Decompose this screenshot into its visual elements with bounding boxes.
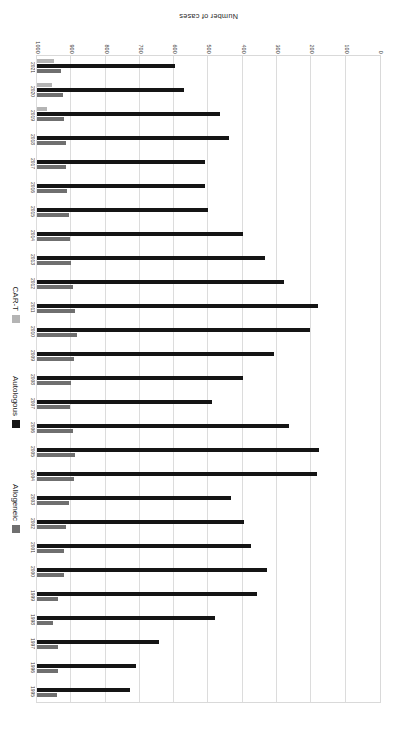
bar-autologous-2009 [37, 352, 274, 356]
legend-item-car-t[interactable]: CAR-T [1, 287, 31, 323]
value-tick-label: 300 [275, 44, 281, 54]
value-tick-label: 700 [138, 44, 144, 54]
bar-allogeneic-2019 [37, 117, 64, 121]
category-tick-label-2001: 2001 [15, 535, 35, 559]
bar-allogeneic-2017 [37, 165, 66, 169]
bar-allogeneic-2016 [37, 189, 67, 193]
bar-autologous-2020 [37, 88, 184, 92]
value-tick-label: 900 [69, 44, 75, 54]
legend-swatch-allogeneic [12, 525, 20, 533]
bar-allogeneic-2015 [37, 213, 69, 217]
bar-allogeneic-2005 [37, 453, 75, 457]
category-tick-label-2000: 2000 [15, 559, 35, 583]
bar-allogeneic-2011 [37, 309, 75, 313]
bar-autologous-2014 [37, 232, 243, 236]
chart-page: 01002003004005006007008009001000 Number … [0, 0, 417, 733]
value-tick-label: 0 [378, 51, 384, 54]
gridline [345, 56, 346, 702]
legend-item-autologous[interactable]: Autologous [1, 376, 31, 428]
category-tick-label-2018: 2018 [15, 127, 35, 151]
bar-autologous-2004 [37, 472, 317, 476]
category-tick-label-2015: 2015 [15, 199, 35, 223]
value-axis-ticks: 01002003004005006007008009001000 [36, 20, 381, 54]
category-tick-label-2020: 2020 [15, 79, 35, 103]
chart-legend: AllogeneicAutologousCAR-T [1, 233, 31, 533]
bar-allogeneic-2009 [37, 357, 74, 361]
bar-allogeneic-2002 [37, 525, 66, 529]
bar-allogeneic-2001 [37, 549, 64, 553]
rotated-figure: 01002003004005006007008009001000 Number … [0, 0, 417, 733]
bar-autologous-2001 [37, 544, 251, 548]
bar-autologous-1997 [37, 640, 159, 644]
bar-allogeneic-1995 [37, 693, 57, 697]
category-tick-label-1995: 1995 [15, 679, 35, 703]
bar-allogeneic-2004 [37, 477, 74, 481]
bar-autologous-2000 [37, 568, 267, 572]
bar-autologous-2010 [37, 328, 310, 332]
bar-allogeneic-1999 [37, 597, 58, 601]
bar-allogeneic-2013 [37, 261, 71, 265]
bar-allogeneic-2014 [37, 237, 70, 241]
value-axis-title: Number of cases [0, 12, 417, 21]
bar-allogeneic-2012 [37, 285, 73, 289]
bar-autologous-2007 [37, 400, 212, 404]
category-tick-label-1998: 1998 [15, 607, 35, 631]
category-tick-label-2016: 2016 [15, 175, 35, 199]
category-tick-label-2021: 2021 [15, 55, 35, 79]
category-tick-label-1999: 1999 [15, 583, 35, 607]
bar-allogeneic-1997 [37, 645, 58, 649]
bar-allogeneic-2006 [37, 429, 73, 433]
legend-swatch-car-t [12, 315, 20, 323]
bar-allogeneic-2007 [37, 405, 70, 409]
bar-autologous-2017 [37, 160, 205, 164]
bar-autologous-2013 [37, 256, 265, 260]
category-tick-label-2017: 2017 [15, 151, 35, 175]
bar-autologous-1995 [37, 688, 130, 692]
category-tick-label-1996: 1996 [15, 655, 35, 679]
bar-car-t-2019 [37, 107, 47, 111]
bar-allogeneic-2020 [37, 93, 63, 97]
legend-label: CAR-T [12, 287, 21, 311]
bar-car-t-2021 [37, 59, 54, 63]
bar-autologous-2006 [37, 424, 289, 428]
value-tick-label: 200 [309, 44, 315, 54]
bar-autologous-2018 [37, 136, 229, 140]
legend-label: Allogeneic [12, 484, 21, 521]
bar-autologous-1996 [37, 664, 136, 668]
gridline [276, 56, 277, 702]
value-tick-label: 100 [344, 44, 350, 54]
bar-allogeneic-2008 [37, 381, 71, 385]
legend-swatch-autologous [12, 420, 20, 428]
bar-autologous-1999 [37, 592, 257, 596]
bar-allogeneic-2003 [37, 501, 69, 505]
bar-autologous-2019 [37, 112, 221, 116]
value-tick-label: 800 [104, 44, 110, 54]
bar-autologous-2012 [37, 280, 284, 284]
bar-autologous-2016 [37, 184, 205, 188]
legend-label: Autologous [12, 376, 21, 416]
bar-autologous-2021 [37, 64, 175, 68]
value-tick-label: 600 [172, 44, 178, 54]
plot-area [36, 55, 381, 703]
category-tick-label-1997: 1997 [15, 631, 35, 655]
bar-autologous-2008 [37, 376, 243, 380]
value-tick-label: 400 [241, 44, 247, 54]
bar-autologous-2015 [37, 208, 209, 212]
bar-autologous-1998 [37, 616, 215, 620]
bar-allogeneic-1998 [37, 621, 53, 625]
bar-allogeneic-2021 [37, 69, 61, 73]
bar-autologous-2005 [37, 448, 319, 452]
category-tick-label-2019: 2019 [15, 103, 35, 127]
bar-autologous-2011 [37, 304, 318, 308]
bar-allogeneic-2018 [37, 141, 66, 145]
bar-allogeneic-2000 [37, 573, 64, 577]
bar-allogeneic-2010 [37, 333, 77, 337]
gridline [310, 56, 311, 702]
bar-car-t-2020 [37, 83, 52, 87]
bar-autologous-2003 [37, 496, 231, 500]
bar-autologous-2002 [37, 520, 245, 524]
bar-allogeneic-1996 [37, 669, 58, 673]
value-tick-label: 1000 [35, 41, 41, 54]
legend-item-allogeneic[interactable]: Allogeneic [1, 484, 31, 533]
value-tick-label: 500 [207, 44, 213, 54]
